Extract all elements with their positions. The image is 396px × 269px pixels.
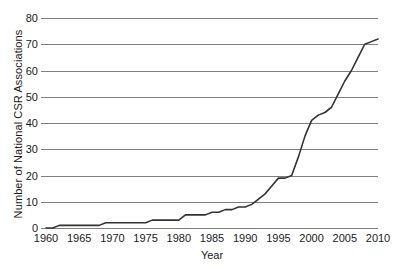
x-axis-tick-label: 1970 [100, 233, 124, 244]
x-axis-tick-label: 2000 [299, 233, 323, 244]
gridline [46, 228, 378, 229]
y-axis-tick-label: 50 [26, 91, 38, 102]
x-axis-title: Year [46, 249, 378, 261]
y-axis-title: Number of National CSR Associations [12, 14, 24, 234]
y-axis-tick-label: 70 [26, 39, 38, 50]
x-axis-tick-label: 1995 [266, 233, 290, 244]
series-polyline [46, 39, 378, 228]
x-axis-tick-label: 1990 [233, 233, 257, 244]
data-series-line [46, 18, 378, 228]
y-axis-tick-label: 20 [26, 170, 38, 181]
x-axis-tick-label: 1975 [133, 233, 157, 244]
y-axis-tick-label: 80 [26, 13, 38, 24]
x-axis-tick-label: 1960 [34, 233, 58, 244]
line-chart: Number of National CSR Associations 0102… [0, 0, 396, 269]
y-axis-tick-label: 60 [26, 65, 38, 76]
x-axis-tick-label: 1980 [167, 233, 191, 244]
x-axis-tick-label: 2010 [366, 233, 390, 244]
y-axis-tick-label: 10 [26, 196, 38, 207]
y-axis-tick-label: 30 [26, 144, 38, 155]
x-axis-tick-label: 1965 [67, 233, 91, 244]
plot-area: 01020304050607080 [46, 18, 378, 228]
x-axis-tick-label: 1985 [200, 233, 224, 244]
y-axis-tick-label: 40 [26, 118, 38, 129]
x-axis-tick-label: 2005 [333, 233, 357, 244]
